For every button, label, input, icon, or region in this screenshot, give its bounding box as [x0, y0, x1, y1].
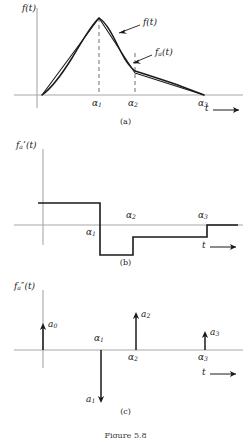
panel-b-tick-alpha2: α2: [126, 211, 136, 220]
panel-c-y-axis-label: fa″(t): [14, 282, 35, 291]
panel-b-step-curve: [38, 203, 238, 255]
panel-a-y-axis-label: f(t): [22, 4, 36, 13]
panel-a-caption: (a): [0, 118, 251, 126]
panel-c-label-a3: a3: [210, 328, 219, 337]
panel-b-x-axis-label: t: [202, 241, 206, 250]
panel-b: fa’(t) α1 α2 α3 t (b): [0, 135, 251, 280]
panel-a-label-fa: fa(t): [155, 48, 173, 57]
panel-c-caption: (c): [0, 408, 251, 416]
panel-b-y-axis-label: fa’(t): [16, 141, 37, 150]
panel-a-tick-alpha1: α1: [92, 99, 102, 108]
panel-a-x-axis-label: t: [205, 104, 209, 113]
panel-b-caption: (b): [0, 259, 251, 267]
panel-c-tick-alpha2: α2: [128, 353, 138, 362]
panel-b-tick-alpha1: α1: [86, 228, 96, 237]
panel-a-plot: [0, 0, 251, 135]
panel-c-label-a0: a0: [48, 320, 57, 329]
panel-c-tick-alpha3: α3: [198, 353, 208, 362]
panel-a-tick-alpha2: α2: [128, 99, 138, 108]
panel-b-tick-alpha3: α3: [198, 211, 208, 220]
panel-c-x-axis-label: t: [202, 368, 206, 377]
panel-a: f(t) f(t) fa(t) α1 α2 α3 t (a): [0, 0, 251, 135]
panel-c-label-a1: a1: [86, 395, 95, 404]
figure-caption: Figure 5.8: [0, 431, 251, 438]
panel-c-label-a2: a2: [141, 310, 150, 319]
panel-a-label-f: f(t): [143, 18, 157, 27]
panel-c: fa″(t) a0 a1 a2 a3 α1 α2 α3 t (c): [0, 280, 251, 438]
panel-a-curve-f: [42, 18, 204, 95]
panel-c-tick-alpha1: α1: [94, 334, 104, 343]
